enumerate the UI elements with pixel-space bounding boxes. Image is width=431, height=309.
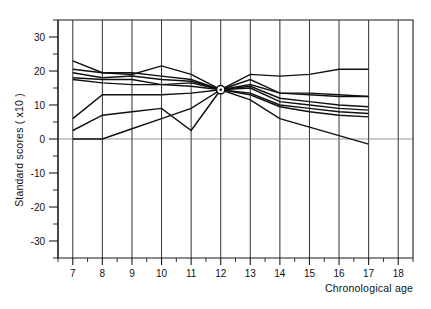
x-tick-label: 15 <box>304 268 316 279</box>
y-tick-label: 20 <box>34 66 46 77</box>
x-tick-label: 18 <box>393 268 405 279</box>
convergence-marker <box>217 86 225 94</box>
y-tick-label: 30 <box>34 32 46 43</box>
y-axis-ticks: 3020100-10-20-30 <box>31 20 58 258</box>
x-axis-title: Chronological age <box>325 282 413 294</box>
x-tick-label: 12 <box>215 268 227 279</box>
x-tick-label: 9 <box>129 268 135 279</box>
x-tick-label: 17 <box>363 268 375 279</box>
x-tick-label: 16 <box>333 268 345 279</box>
x-axis-ticks: 789101112131415161718 <box>58 258 413 279</box>
y-tick-label: -10 <box>31 168 46 179</box>
x-tick-label: 10 <box>156 268 168 279</box>
y-tick-label: -20 <box>31 202 46 213</box>
y-tick-label: 0 <box>39 134 45 145</box>
x-tick-label: 8 <box>100 268 106 279</box>
figure-container: Standard scores ( x10 ) Chronological ag… <box>0 0 431 309</box>
x-tick-label: 11 <box>186 268 197 279</box>
line-chart: Standard scores ( x10 ) Chronological ag… <box>0 0 431 309</box>
x-tick-label: 7 <box>70 268 76 279</box>
y-tick-label: -30 <box>31 236 46 247</box>
y-axis-title: Standard scores ( x10 ) <box>13 93 25 207</box>
x-tick-label: 13 <box>245 268 257 279</box>
x-tick-label: 14 <box>274 268 286 279</box>
convergence-dot-icon <box>219 88 222 91</box>
y-tick-label: 10 <box>34 100 46 111</box>
